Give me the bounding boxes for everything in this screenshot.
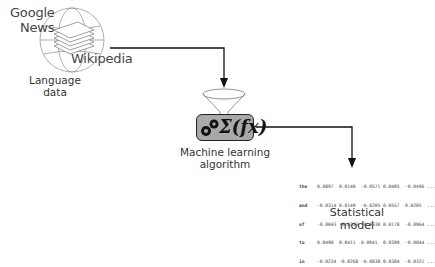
source-wikipedia: Wikipedia bbox=[71, 51, 133, 66]
gears-icon bbox=[199, 117, 221, 139]
table-row: the0.08970.0140-0.05710.0405-0.0496... bbox=[299, 184, 435, 190]
statistical-model-caption: Statistical model bbox=[312, 206, 402, 232]
table-row: in-0.0234-0.0268-0.08380.0384-0.0321... bbox=[299, 259, 435, 265]
caption-line-2: algorithm bbox=[175, 158, 275, 170]
source-google: Google bbox=[10, 5, 55, 20]
table-row: to0.04900.04110.00410.0309-0.0044... bbox=[299, 240, 435, 246]
source-news: News bbox=[20, 20, 54, 35]
caption-line-1: Machine learning bbox=[175, 146, 275, 158]
language-data-caption: Language data bbox=[20, 74, 90, 98]
formula-text: Σ(fx) bbox=[219, 116, 267, 137]
ml-algorithm-caption: Machine learning algorithm bbox=[175, 146, 275, 170]
ml-algorithm-box: Σ(fx) bbox=[196, 114, 254, 141]
document-stack-icon bbox=[54, 22, 94, 54]
